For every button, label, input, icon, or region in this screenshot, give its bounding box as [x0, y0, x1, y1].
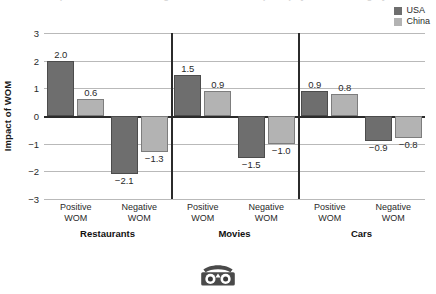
bar — [331, 94, 358, 116]
legend-swatch-usa — [394, 7, 402, 15]
bar-value-label: −0.8 — [390, 139, 427, 150]
y-tick-label: −1 — [28, 138, 39, 149]
bar — [47, 61, 74, 116]
legend-label-usa: USA — [406, 6, 425, 15]
bar-value-label: −1.5 — [233, 159, 270, 170]
bar-value-label: 0.8 — [326, 82, 363, 93]
gridline — [44, 33, 425, 34]
bar — [111, 116, 138, 174]
bar — [238, 116, 265, 158]
bar — [141, 116, 168, 152]
x-tick-label-line2: WOM — [248, 213, 284, 224]
x-tick-label: NegativeWOM — [121, 202, 157, 224]
owl-logo — [198, 264, 238, 288]
x-tick-label-line1: Positive — [314, 202, 346, 213]
legend: USA China — [394, 6, 430, 26]
x-tick-label-line1: Negative — [248, 202, 284, 213]
x-tick-label: PositiveWOM — [314, 202, 346, 224]
bar — [268, 116, 295, 144]
legend-item-china: China — [394, 17, 430, 26]
x-tick-label-line1: Positive — [187, 202, 219, 213]
x-tick-label-line2: WOM — [60, 213, 92, 224]
bar-value-label: 2.0 — [42, 49, 79, 60]
bar-chart-figure: USA China Impact of WOM 3210−1−2−32.00.6… — [0, 0, 436, 294]
gridline — [44, 171, 425, 172]
y-tick-label: 3 — [34, 28, 39, 39]
x-tick-label-line2: WOM — [187, 213, 219, 224]
bar — [174, 75, 201, 117]
group-label: Restaurants — [80, 228, 135, 239]
plot-area: 3210−1−2−32.00.6−2.1−1.31.50.9−1.5−1.00.… — [44, 33, 425, 199]
legend-item-usa: USA — [394, 6, 430, 15]
x-tick-label: NegativeWOM — [248, 202, 284, 224]
legend-label-china: China — [406, 17, 430, 26]
y-tick-label: −3 — [28, 194, 39, 205]
bar-value-label: −2.1 — [106, 175, 143, 186]
x-tick-label: NegativeWOM — [375, 202, 411, 224]
legend-swatch-china — [394, 18, 402, 26]
group-label: Movies — [218, 228, 250, 239]
x-tick-label-line1: Negative — [375, 202, 411, 213]
bar — [77, 99, 104, 116]
y-tick-label: 0 — [34, 111, 39, 122]
x-tick-label-line2: WOM — [121, 213, 157, 224]
gridline — [44, 199, 425, 200]
bar — [365, 116, 392, 141]
y-tick-label: 1 — [34, 83, 39, 94]
x-tick-label: PositiveWOM — [60, 202, 92, 224]
bar — [204, 91, 231, 116]
x-tick-label: PositiveWOM — [187, 202, 219, 224]
bar-value-label: 1.5 — [169, 63, 206, 74]
gridline — [44, 61, 425, 62]
bar — [395, 116, 422, 138]
group-separator — [298, 33, 300, 199]
x-tick-label-line1: Negative — [121, 202, 157, 213]
bar-value-label: 0.9 — [199, 79, 236, 90]
group-separator — [171, 33, 173, 199]
bar — [301, 91, 328, 116]
group-label: Cars — [351, 228, 372, 239]
y-tick-label: 2 — [34, 55, 39, 66]
x-tick-label-line2: WOM — [314, 213, 346, 224]
x-tick-label-line1: Positive — [60, 202, 92, 213]
bar-value-label: −1.0 — [263, 145, 300, 156]
x-tick-label-line2: WOM — [375, 213, 411, 224]
bar-value-label: −1.3 — [136, 153, 173, 164]
y-tick-label: −2 — [28, 166, 39, 177]
bar-value-label: 0.6 — [72, 87, 109, 98]
y-axis-title: Impact of WOM — [2, 81, 13, 151]
